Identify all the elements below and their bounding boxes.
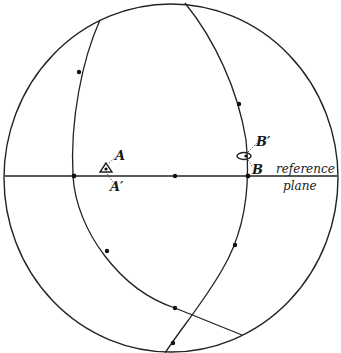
ellipse-symbol-b	[237, 153, 251, 160]
left-arc-pole-1	[77, 70, 81, 74]
left-arc-pole-3	[105, 249, 109, 253]
b-dot	[244, 154, 247, 157]
label-plane: plane	[283, 179, 317, 193]
label-b-prime: B′	[255, 134, 271, 149]
left-arc-pole-2	[72, 174, 77, 179]
left-great-circle	[73, 20, 242, 335]
right-arc-pole-3	[233, 243, 237, 247]
a-dot	[104, 167, 107, 170]
label-a-prime: A′	[108, 179, 124, 194]
label-a: A	[113, 148, 125, 163]
right-arc-pole-4	[171, 341, 175, 345]
right-great-circle	[165, 3, 248, 353]
stereographic-projection: A A′ B′ B reference plane	[0, 0, 341, 353]
right-arc-pole-1	[237, 102, 241, 106]
pole-dots	[72, 70, 251, 345]
right-arc-pole-2	[246, 174, 251, 179]
label-reference: reference	[276, 162, 335, 176]
primitive-circle	[4, 4, 338, 352]
center-pole	[173, 174, 177, 178]
left-arc-pole-4	[173, 306, 177, 310]
label-b: B	[251, 162, 263, 177]
